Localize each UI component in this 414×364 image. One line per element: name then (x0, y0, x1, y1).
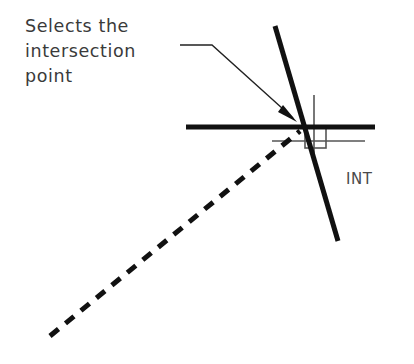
dashed-diagonal-line (50, 131, 300, 336)
annotation-text: Selects the intersection point (25, 14, 215, 89)
snap-label-int: INT (346, 170, 372, 188)
steep-diagonal-line (275, 26, 338, 241)
